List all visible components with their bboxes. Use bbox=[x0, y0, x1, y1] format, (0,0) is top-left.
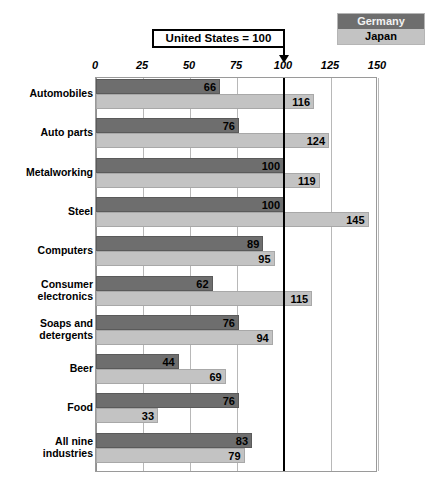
bar-japan: 116 bbox=[96, 94, 314, 109]
x-tick-125: 125 bbox=[321, 59, 339, 71]
bar-japan: 119 bbox=[96, 173, 320, 188]
category-label-line: Auto parts bbox=[0, 126, 93, 138]
bar-japan: 145 bbox=[96, 212, 369, 227]
bar-value-label: 124 bbox=[307, 134, 325, 149]
bar-value-label: 145 bbox=[346, 213, 364, 228]
bar-value-label: 100 bbox=[262, 159, 280, 174]
bar-row: 100119 bbox=[96, 158, 376, 188]
x-tick-150: 150 bbox=[368, 59, 386, 71]
category-label-line: All nine bbox=[0, 435, 93, 447]
category-label-line: Computers bbox=[0, 244, 93, 256]
bar-japan: 124 bbox=[96, 133, 329, 148]
bar-germany: 62 bbox=[96, 276, 213, 291]
bar-value-label: 116 bbox=[292, 95, 310, 110]
bar-germany: 44 bbox=[96, 354, 179, 369]
category-label-line: Consumer bbox=[0, 278, 93, 290]
legend-item-germany: Germany bbox=[338, 14, 424, 29]
bar-value-label: 69 bbox=[209, 370, 221, 385]
bar-value-label: 83 bbox=[236, 434, 248, 449]
bar-germany: 76 bbox=[96, 118, 239, 133]
bar-value-label: 100 bbox=[262, 198, 280, 213]
chart-legend: Germany Japan bbox=[337, 13, 425, 45]
reference-callout: United States = 100 bbox=[152, 29, 285, 48]
bar-row: 7694 bbox=[96, 315, 376, 345]
x-tick-0: 0 bbox=[92, 59, 98, 71]
bar-germany: 89 bbox=[96, 236, 263, 251]
bar-germany: 76 bbox=[96, 315, 239, 330]
gridline-100 bbox=[283, 78, 285, 471]
bar-value-label: 95 bbox=[258, 252, 270, 267]
category-label-all-nine-industries: All nineindustries bbox=[0, 435, 93, 459]
legend-label-germany: Germany bbox=[357, 15, 405, 27]
gridline-150 bbox=[378, 78, 379, 471]
category-axis-labels: AutomobilesAuto partsMetalworkingSteelCo… bbox=[0, 77, 93, 472]
category-label-beer: Beer bbox=[0, 362, 93, 374]
category-label-steel: Steel bbox=[0, 205, 93, 217]
bar-japan: 95 bbox=[96, 251, 275, 266]
category-label-line: Food bbox=[0, 401, 93, 413]
bar-row: 62115 bbox=[96, 276, 376, 306]
bar-germany: 100 bbox=[96, 158, 284, 173]
bar-germany: 76 bbox=[96, 393, 239, 408]
x-tick-75: 75 bbox=[230, 59, 242, 71]
bar-germany: 83 bbox=[96, 433, 252, 448]
category-label-line: Soaps and bbox=[0, 317, 93, 329]
legend-item-japan: Japan bbox=[338, 29, 424, 44]
category-label-line: Beer bbox=[0, 362, 93, 374]
category-label-line: Steel bbox=[0, 205, 93, 217]
category-label-soaps-and-detergents: Soaps anddetergents bbox=[0, 317, 93, 341]
bar-value-label: 66 bbox=[204, 80, 216, 95]
bar-row: 66116 bbox=[96, 79, 376, 109]
reference-callout-text: United States = 100 bbox=[166, 32, 272, 44]
category-label-food: Food bbox=[0, 401, 93, 413]
chart-root: Germany Japan United States = 100 025507… bbox=[0, 0, 441, 493]
bar-value-label: 44 bbox=[162, 355, 174, 370]
bar-value-label: 89 bbox=[247, 237, 259, 252]
category-label-auto-parts: Auto parts bbox=[0, 126, 93, 138]
category-label-consumer-electronics: Consumerelectronics bbox=[0, 278, 93, 302]
category-label-line: detergents bbox=[0, 329, 93, 341]
bar-row: 8379 bbox=[96, 433, 376, 463]
bar-value-label: 62 bbox=[196, 277, 208, 292]
bar-row: 8995 bbox=[96, 236, 376, 266]
bar-value-label: 94 bbox=[256, 331, 268, 346]
bar-japan: 33 bbox=[96, 408, 158, 423]
bar-value-label: 119 bbox=[298, 174, 316, 189]
bar-rows: 6611676124100119100145899562115769444697… bbox=[96, 78, 376, 471]
category-label-line: Automobiles bbox=[0, 87, 93, 99]
bar-germany: 100 bbox=[96, 197, 284, 212]
category-label-automobiles: Automobiles bbox=[0, 87, 93, 99]
bar-row: 76124 bbox=[96, 118, 376, 148]
category-label-line: Metalworking bbox=[0, 166, 93, 178]
x-tick-25: 25 bbox=[136, 59, 148, 71]
plot-area: 6611676124100119100145899562115769444697… bbox=[95, 77, 377, 472]
category-label-computers: Computers bbox=[0, 244, 93, 256]
bar-row: 7633 bbox=[96, 393, 376, 423]
category-label-line: electronics bbox=[0, 290, 93, 302]
bar-value-label: 79 bbox=[228, 449, 240, 464]
bar-row: 4469 bbox=[96, 354, 376, 384]
legend-label-japan: Japan bbox=[365, 30, 397, 42]
category-label-line: industries bbox=[0, 447, 93, 459]
bar-germany: 66 bbox=[96, 79, 220, 94]
x-tick-100: 100 bbox=[274, 59, 292, 71]
bar-value-label: 76 bbox=[223, 316, 235, 331]
bar-japan: 79 bbox=[96, 448, 245, 463]
bar-japan: 115 bbox=[96, 291, 312, 306]
bar-value-label: 33 bbox=[142, 409, 154, 424]
bar-japan: 69 bbox=[96, 369, 226, 384]
bar-row: 100145 bbox=[96, 197, 376, 227]
bar-value-label: 76 bbox=[223, 119, 235, 134]
bar-japan: 94 bbox=[96, 330, 273, 345]
x-tick-50: 50 bbox=[183, 59, 195, 71]
x-axis-tick-labels: 0255075100125150 bbox=[0, 59, 441, 73]
bar-value-label: 76 bbox=[223, 394, 235, 409]
bar-value-label: 115 bbox=[290, 292, 308, 307]
category-label-metalworking: Metalworking bbox=[0, 166, 93, 178]
